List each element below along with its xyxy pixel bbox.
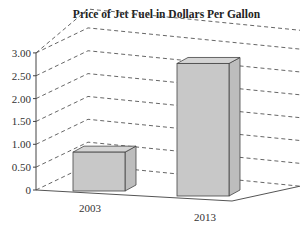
y-tick-label: 2.50 (12, 70, 32, 82)
bar-chart-3d: 00.501.001.502.002.503.0020032013 (0, 0, 305, 230)
gridline (36, 74, 300, 99)
bar-2013-front (177, 63, 229, 196)
y-tick-label: 0 (26, 184, 32, 196)
gridline (36, 51, 300, 76)
x-tick-label: 2013 (194, 211, 217, 223)
x-tick-label: 2003 (79, 202, 102, 214)
bar-2013-top (177, 57, 240, 63)
bar-2003-top (73, 146, 136, 152)
y-tick-label: 1.50 (12, 115, 32, 127)
gridline (36, 28, 300, 53)
wall-top-edge (36, 9, 300, 53)
gridline (36, 96, 300, 121)
y-tick-label: 2.00 (12, 93, 32, 105)
gridline (36, 119, 300, 144)
y-tick-label: 3.00 (12, 47, 32, 59)
bar-2003-side (125, 146, 136, 191)
y-tick-label: 0.50 (12, 161, 32, 173)
bar-2003-front (73, 152, 125, 191)
y-tick-label: 1.00 (12, 138, 32, 150)
bar-2013-side (229, 57, 240, 196)
